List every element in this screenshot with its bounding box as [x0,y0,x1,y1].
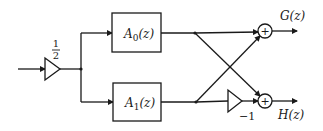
a0-label-arg: (z) [138,27,154,41]
a0-label-main: A [123,27,133,41]
input-junction-dot [79,67,82,70]
a1-to-negation-gain [196,101,228,102]
negation-gain-label: −1 [239,110,255,123]
a0-to-top-adder [195,32,258,33]
a0-to-bottom-adder-cross [195,33,260,96]
bottom-adder-plus: + [260,95,269,108]
top-adder-plus: + [260,25,269,38]
half-gain-triangle [45,58,60,80]
filter-bank-diagram: 1 2 A0(z) A1(z) + + −1 G(z) H(z) [0,0,323,131]
g-output-label: G(z) [280,9,306,23]
half-gain-denominator: 2 [53,50,59,61]
a1-split-dot [194,100,197,103]
a1-label-arg: (z) [139,96,155,110]
negation-gain-triangle [228,90,242,112]
half-gain-numerator: 1 [53,38,59,49]
h-output-label: H(z) [277,108,304,122]
a0-split-dot [193,31,196,34]
a0-label: A0(z) [123,27,154,43]
a1-label: A1(z) [124,96,155,112]
a1-label-main: A [124,96,134,110]
